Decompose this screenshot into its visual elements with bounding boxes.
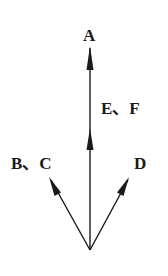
arrow-a-head-icon: [87, 46, 94, 70]
label-d: D: [134, 155, 146, 172]
arrow-d-head-icon: [117, 177, 129, 196]
arrow-ef-head-icon: [87, 128, 94, 150]
arrow-bc-head-icon: [49, 177, 61, 196]
label-b-c: B、C: [11, 155, 52, 172]
label-e-f: E、F: [101, 100, 140, 117]
label-a: A: [83, 27, 95, 44]
